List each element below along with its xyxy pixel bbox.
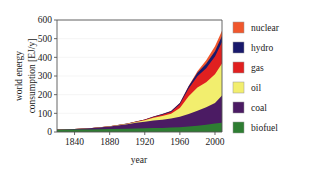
x-tick-label-1920: 1920 <box>135 137 154 147</box>
y-tick-label-600: 600 <box>38 15 53 25</box>
y-tick-label-200: 200 <box>38 90 53 100</box>
x-tick-label-1960: 1960 <box>170 137 189 147</box>
y-axis-label-line1: world energy <box>14 51 24 101</box>
legend: nuclearhydrogasoilcoalbiofuel <box>233 22 280 133</box>
energy-consumption-figure: 0100200300400500600 18401880192019602000… <box>0 0 311 171</box>
legend-swatch-biofuel <box>233 122 244 133</box>
y-tick-label-400: 400 <box>38 53 53 63</box>
x-tick-group: 18401880192019602000 <box>65 132 225 147</box>
legend-label-coal: coal <box>251 103 267 113</box>
legend-swatch-coal <box>233 102 244 113</box>
y-axis-label-line2: consumption [EJ/y] <box>27 39 37 114</box>
x-tick-label-2000: 2000 <box>205 137 224 147</box>
x-axis-label: year <box>131 155 148 165</box>
legend-label-biofuel: biofuel <box>251 123 278 133</box>
legend-swatch-gas <box>233 62 244 73</box>
legend-swatch-nuclear <box>233 22 244 33</box>
legend-label-nuclear: nuclear <box>251 23 280 33</box>
y-tick-label-500: 500 <box>38 34 53 44</box>
legend-label-gas: gas <box>251 63 264 73</box>
x-tick-label-1840: 1840 <box>65 137 84 147</box>
stacked-area-chart: 0100200300400500600 18401880192019602000… <box>0 0 311 171</box>
y-tick-label-300: 300 <box>38 71 53 81</box>
x-tick-label-1880: 1880 <box>100 137 119 147</box>
x-axis-title: year <box>131 155 148 165</box>
legend-label-hydro: hydro <box>251 43 273 53</box>
y-tick-label-100: 100 <box>38 109 53 119</box>
y-tick-group: 0100200300400500600 <box>38 15 57 137</box>
legend-swatch-oil <box>233 82 244 93</box>
legend-swatch-hydro <box>233 42 244 53</box>
y-tick-label-0: 0 <box>47 127 52 137</box>
y-axis-title: world energy consumption [EJ/y] <box>14 39 37 114</box>
legend-label-oil: oil <box>251 83 261 93</box>
